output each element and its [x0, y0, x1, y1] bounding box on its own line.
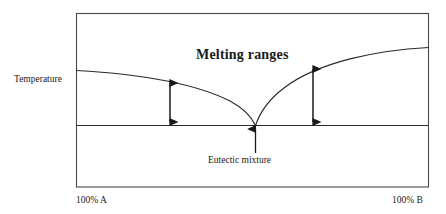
x-axis-left-label: 100% A	[76, 196, 107, 206]
eutectic-mixture-label: Eutectic mixture	[208, 156, 271, 166]
figure-canvas: Temperature Melting ranges Eutectic mixt…	[0, 0, 446, 214]
y-axis-label: Temperature	[14, 75, 62, 85]
x-axis-right-label: 100% B	[392, 196, 423, 206]
phase-diagram-svg	[0, 0, 446, 214]
chart-title: Melting ranges	[196, 48, 289, 62]
